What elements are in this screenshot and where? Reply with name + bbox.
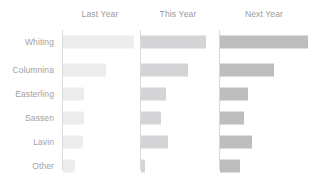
category-label-sassen: Sassen: [25, 113, 54, 123]
category-axis: Whiting Columnina Easterling Sassen Lavi…: [0, 30, 58, 170]
bar-next-year-easterling: [220, 88, 248, 101]
bar-next-year-whiting: [220, 36, 308, 49]
category-label-easterling: Easterling: [15, 89, 54, 99]
bar-next-year-columnina: [220, 64, 274, 77]
panel-last-year: [62, 30, 138, 170]
bar-this-year-columnina: [141, 64, 188, 77]
bar-this-year-lavin: [141, 136, 168, 149]
category-label-lavin: Lavin: [33, 137, 54, 147]
bar-next-year-sassen: [220, 112, 244, 125]
bar-this-year-sassen: [141, 112, 161, 125]
bar-last-year-lavin: [63, 136, 83, 149]
bar-this-year-easterling: [141, 88, 166, 101]
panel-title-this-year: This Year: [140, 9, 216, 19]
panel-title-next-year: Next Year: [219, 9, 309, 19]
category-label-other: Other: [32, 161, 54, 171]
bar-this-year-other: [141, 160, 145, 173]
bar-last-year-sassen: [63, 112, 84, 125]
bar-next-year-lavin: [220, 136, 252, 149]
panel-title-last-year: Last Year: [62, 9, 138, 19]
bar-last-year-other: [63, 160, 75, 173]
panel-this-year: [140, 30, 216, 170]
bar-chart: Last Year This Year Next Year Whiting Co…: [0, 0, 313, 179]
bar-last-year-columnina: [63, 64, 106, 77]
panel-next-year: [219, 30, 309, 170]
bar-next-year-other: [220, 160, 240, 173]
bar-last-year-whiting: [63, 36, 134, 49]
bar-this-year-whiting: [141, 36, 206, 49]
category-label-columnina: Columnina: [12, 65, 54, 75]
bar-last-year-easterling: [63, 88, 84, 101]
category-label-whiting: Whiting: [25, 37, 54, 47]
